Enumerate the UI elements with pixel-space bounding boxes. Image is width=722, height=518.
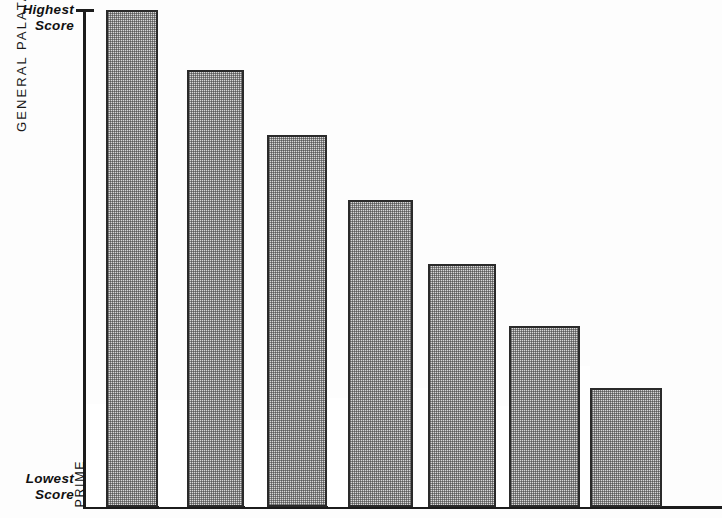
bar: [428, 264, 496, 507]
plot-area: PRIMECHOICEGOODSTANDARDCOMMERCIALUTILITY…: [0, 0, 722, 518]
bar: [590, 388, 662, 507]
bar-label-slot: GOOD: [245, 420, 267, 507]
bar: [509, 326, 580, 507]
bar: [267, 135, 327, 507]
bar-category-label: PRIME: [74, 459, 87, 507]
palatability-bar-chart: Highest Score Lowest Score GENERAL PALAT…: [0, 0, 722, 518]
bar: [106, 10, 158, 507]
bar: [187, 70, 244, 507]
bar-label-slot: CHOICE: [159, 400, 187, 507]
bar: [348, 200, 413, 507]
bar-label-slot: STANDARD: [328, 398, 348, 507]
bar-label-slot: PRIME: [86, 404, 106, 507]
